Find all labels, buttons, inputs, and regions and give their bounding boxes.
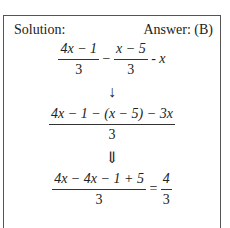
step-3-expression: 4x − 4x − 1 + 5 3 = 4 3 [4,171,220,208]
fraction-step-3-left: 4x − 4x − 1 + 5 3 [52,171,146,208]
solution-box: Solution: Answer: (B) 4x − 1 3 − x − 5 3… [3,15,221,228]
step-1-expression: 4x − 1 3 − x − 5 3 - x [4,41,220,78]
step-2-expression: 4x − 1 − (x − 5) − 3x 3 [4,106,220,143]
fraction-step-2: 4x − 1 − (x − 5) − 3x 3 [49,106,175,143]
answer-label: Answer: (B) [143,22,213,38]
solution-label: Solution: [14,22,65,38]
fraction-1: 4x − 1 3 [58,41,99,78]
fraction-step-3-right: 4 3 [161,171,172,208]
down-arrow-icon: ↓ [4,83,220,101]
step-1-tail: - x [151,51,165,66]
fraction-2: x − 5 3 [114,41,148,78]
double-down-arrow-icon: ⇓ [4,148,220,167]
